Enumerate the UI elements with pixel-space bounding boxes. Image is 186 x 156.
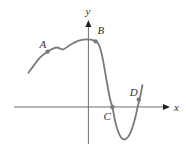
y-axis-label: y bbox=[84, 5, 90, 17]
point-c-label: C bbox=[103, 110, 111, 122]
point-a-label: A bbox=[39, 38, 47, 50]
point-b-label: B bbox=[98, 24, 105, 36]
function-graph: x y ABCD bbox=[0, 0, 186, 156]
axes: x y bbox=[14, 5, 179, 144]
y-axis-arrow-icon bbox=[85, 20, 91, 27]
x-axis-label: x bbox=[173, 101, 179, 113]
point-b-marker bbox=[93, 39, 97, 43]
series bbox=[28, 39, 142, 139]
point-d-label: D bbox=[129, 86, 138, 98]
function-curve bbox=[28, 39, 142, 139]
point-c-marker bbox=[110, 105, 114, 109]
point-a-marker bbox=[45, 49, 49, 53]
x-axis-arrow-icon bbox=[163, 104, 170, 110]
